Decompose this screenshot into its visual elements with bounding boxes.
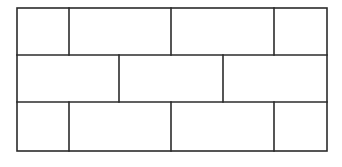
brick-grid-diagram [0, 0, 342, 167]
outer-border [17, 8, 327, 151]
